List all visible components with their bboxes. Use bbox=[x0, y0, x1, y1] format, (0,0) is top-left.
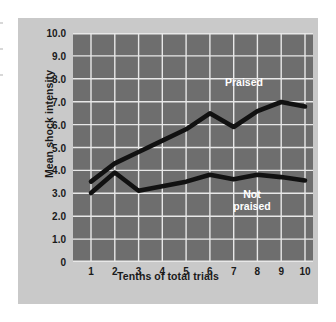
x-axis-title: Tenths of total trials bbox=[18, 270, 318, 282]
y-tick-label-4: 4.0 bbox=[32, 165, 66, 176]
series-annotation-not-praised: Not praised bbox=[223, 189, 281, 212]
scan-artifact-left-2 bbox=[0, 48, 3, 50]
y-tick-label-1: 1.0 bbox=[32, 234, 66, 245]
y-tick-label-7: 7.0 bbox=[32, 97, 66, 108]
series-annotation-praised: Praised bbox=[213, 77, 275, 89]
y-tick-label-2: 2.0 bbox=[32, 211, 66, 222]
figure-canvas: Mean shock intensity 10.0 9.0 8.0 7.0 6.… bbox=[0, 0, 336, 322]
y-tick-label-0: 0 bbox=[32, 257, 66, 268]
y-tick-label-5: 5.0 bbox=[32, 143, 66, 154]
y-tick-label-6: 6.0 bbox=[32, 120, 66, 131]
y-tick-label-9: 9.0 bbox=[32, 51, 66, 62]
y-tick-label-8: 8.0 bbox=[32, 74, 66, 85]
chart-card-inner: Mean shock intensity 10.0 9.0 8.0 7.0 6.… bbox=[18, 18, 318, 304]
y-tick-label-10: 10.0 bbox=[32, 28, 66, 39]
y-tick-label-3: 3.0 bbox=[32, 188, 66, 199]
scan-artifact-left-3 bbox=[0, 74, 3, 76]
series-line-praised bbox=[91, 102, 305, 182]
gridlines-horizontal bbox=[73, 34, 313, 262]
chart-card: Mean shock intensity 10.0 9.0 8.0 7.0 6.… bbox=[18, 18, 318, 304]
plot-area: Praised Not praised bbox=[73, 33, 313, 262]
scan-artifact-left bbox=[0, 22, 3, 24]
plot-svg bbox=[73, 33, 313, 262]
